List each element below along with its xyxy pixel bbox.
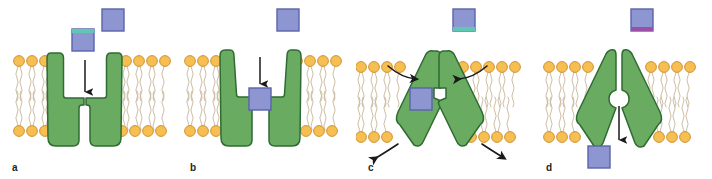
conformation-arrow-bottom-right xyxy=(482,144,504,158)
panel-a: a xyxy=(0,0,178,179)
substrate-occluded-in-site xyxy=(410,88,432,110)
panel-c: c xyxy=(356,0,534,179)
substrate-free-upper-right xyxy=(102,9,124,31)
substrate-released-below-membrane xyxy=(588,146,610,168)
panel-d: d xyxy=(534,0,712,179)
panel-c-label: c xyxy=(368,163,374,173)
panel-b-label: b xyxy=(190,163,196,173)
panel-b: b xyxy=(178,0,356,179)
substrate-free-above-membrane xyxy=(631,9,653,31)
panel-d-label: d xyxy=(546,163,552,173)
panel-a-illustration xyxy=(0,0,178,179)
substrate-free-above-membrane xyxy=(453,9,475,31)
substrate-free-above-membrane xyxy=(277,9,299,31)
panel-d-illustration xyxy=(534,0,712,179)
panel-b-illustration xyxy=(178,0,356,179)
figure-root: a xyxy=(0,0,712,179)
substrate-bound-in-site xyxy=(249,88,271,110)
conformation-arrow-bottom-left xyxy=(376,144,398,158)
substrate-purple-accent xyxy=(631,27,653,31)
substrate-approaching-pore xyxy=(72,29,94,51)
substrate-teal-accent xyxy=(453,27,475,31)
substrate-teal-accent xyxy=(72,29,94,33)
lipid-bilayer-right xyxy=(117,56,171,137)
panel-a-label: a xyxy=(12,163,18,173)
panel-c-illustration xyxy=(356,0,534,179)
